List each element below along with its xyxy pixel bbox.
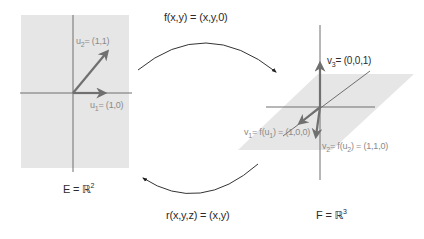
v2-value: ) = (1,1,0) bbox=[351, 141, 388, 151]
space-E-dimension: 2 bbox=[91, 182, 95, 189]
v2-index: 2 bbox=[326, 146, 330, 153]
v1-value: ) = (1,0,0) bbox=[273, 127, 310, 137]
space-F-prefix: F = bbox=[316, 209, 334, 221]
mapping-f-arrow bbox=[138, 43, 276, 72]
plane-F bbox=[238, 25, 414, 180]
v1-index: 1 bbox=[248, 132, 252, 139]
v1-expr-index: 1 bbox=[269, 132, 273, 139]
u2-label: u2= (1,1) bbox=[76, 37, 109, 46]
space-E-field: ℝ bbox=[82, 183, 91, 196]
v2-expr: = f(u bbox=[330, 141, 347, 151]
u1-index: 1 bbox=[95, 105, 99, 112]
diagram-canvas bbox=[0, 0, 424, 239]
mapping-r-arrow bbox=[143, 164, 258, 194]
space-F-field: ℝ bbox=[334, 209, 343, 222]
space-E-prefix: E = bbox=[63, 183, 82, 195]
v2-label: v2= f(u2) = (1,1,0) bbox=[322, 142, 388, 151]
xy-plane-in-F bbox=[238, 74, 414, 150]
v3-value: = (0,0,1) bbox=[336, 55, 372, 66]
v1-label: v1= f(u1) = (1,0,0) bbox=[244, 128, 310, 137]
mapping-f-label: f(x,y) = (x,y,0) bbox=[164, 12, 228, 23]
space-E-title: E = ℝ2 bbox=[63, 184, 94, 195]
space-F-dimension: 3 bbox=[343, 208, 347, 215]
v3-index: 3 bbox=[332, 61, 336, 68]
v1-expr: = f(u bbox=[252, 127, 269, 137]
space-F-title: F = ℝ3 bbox=[316, 210, 347, 221]
u2-value: = (1,1) bbox=[85, 36, 110, 46]
v3-label: v3= (0,0,1) bbox=[327, 56, 371, 66]
v2-expr-index: 2 bbox=[347, 146, 351, 153]
mapping-r-label: r(x,y,z) = (x,y) bbox=[166, 210, 230, 221]
u2-index: 2 bbox=[81, 41, 85, 48]
u1-value: = (1,0) bbox=[99, 100, 124, 110]
u1-label: u1= (1,0) bbox=[90, 101, 123, 110]
